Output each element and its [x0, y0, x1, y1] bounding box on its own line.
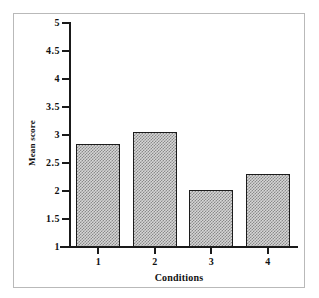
- y-axis-tick-label: 1.5: [46, 214, 60, 224]
- y-axis-tick: [62, 78, 70, 80]
- x-axis-tick: [154, 248, 156, 254]
- x-axis-tick-label: 1: [78, 256, 118, 267]
- y-axis-tick: [62, 50, 70, 52]
- y-axis-tick: [62, 162, 70, 164]
- x-axis-tick: [97, 248, 99, 254]
- y-axis-tick-label: 4.5: [46, 46, 60, 56]
- x-axis-tick-label: 2: [135, 256, 175, 267]
- bar: [246, 174, 290, 247]
- y-axis-tick: [62, 22, 70, 24]
- y-axis-title: Mean score: [27, 108, 37, 178]
- y-axis-tick-label: 4: [55, 74, 61, 84]
- y-axis-tick-label: 1: [55, 242, 61, 252]
- y-axis-tick: [62, 246, 70, 248]
- x-axis-title: Conditions: [60, 272, 298, 283]
- y-axis-tick-label: 2.5: [46, 158, 60, 168]
- y-axis-tick: [62, 190, 70, 192]
- y-axis-tick-label: 2: [55, 186, 61, 196]
- y-axis-tick: [62, 134, 70, 136]
- y-axis-tick-label: 5: [55, 18, 61, 28]
- x-axis-tick-label: 3: [191, 256, 231, 267]
- bar-chart-figure: 11.522.533.544.55 1234 Mean score Condit…: [0, 0, 319, 298]
- y-axis-tick: [62, 106, 70, 108]
- y-axis-tick-label: 3.5: [46, 102, 60, 112]
- bar: [133, 132, 177, 247]
- bar: [76, 144, 120, 247]
- x-axis-tick: [210, 248, 212, 254]
- bar: [189, 190, 233, 247]
- x-axis-tick: [267, 248, 269, 254]
- x-axis-tick-label: 4: [248, 256, 288, 267]
- y-axis-tick: [62, 218, 70, 220]
- y-axis-tick-label: 3: [55, 130, 61, 140]
